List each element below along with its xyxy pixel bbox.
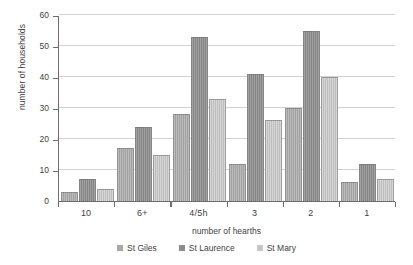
legend-label: St Giles (127, 243, 157, 253)
y-axis-tick-label: 20 (40, 134, 49, 144)
y-axis-tick-label: 10 (40, 165, 49, 175)
x-axis-tick-mark (58, 202, 59, 207)
x-axis-tick-mark (170, 202, 171, 207)
bar-chart: number of households 0102030405060 106+4… (0, 0, 413, 265)
bar (303, 31, 320, 202)
x-axis-tick-mark (114, 202, 115, 207)
x-axis-tick-mark (227, 202, 228, 207)
x-axis-tick-label: 4/5h (170, 208, 226, 218)
bar (153, 155, 170, 202)
bar (135, 127, 152, 201)
bar (173, 114, 190, 201)
bar (285, 108, 302, 201)
bar (61, 192, 78, 201)
bar (191, 37, 208, 201)
x-axis-tick-label: 10 (58, 208, 114, 218)
bar (359, 164, 376, 201)
bar-group (115, 16, 171, 201)
legend-swatch (179, 245, 185, 251)
x-axis-tick-label: 6+ (114, 208, 170, 218)
bar (321, 77, 338, 201)
y-axis-tick-label: 40 (40, 72, 49, 82)
legend-swatch (257, 245, 263, 251)
x-axis-tick-mark (283, 202, 284, 207)
legend-item: St Laurence (179, 243, 235, 253)
chart-legend: St GilesSt LaurenceSt Mary (0, 243, 413, 253)
bar (265, 120, 282, 201)
x-axis-labels: 106+4/5h321 (58, 208, 395, 218)
bar (209, 99, 226, 201)
x-axis-title: number of hearths (58, 226, 395, 236)
bar (341, 182, 358, 201)
bar (79, 179, 96, 201)
bar-group (171, 16, 227, 201)
y-axis-tick-label: 50 (40, 41, 49, 51)
plot-area (58, 16, 395, 202)
legend-item: St Giles (117, 243, 157, 253)
bar (117, 148, 134, 201)
gridline (59, 14, 395, 15)
y-axis-tick-label: 30 (40, 103, 49, 113)
bar (377, 179, 394, 201)
legend-item: St Mary (257, 243, 296, 253)
legend-label: St Mary (267, 243, 296, 253)
x-axis-tick-mark (339, 202, 340, 207)
bar-group (283, 16, 339, 201)
x-axis-tick-label: 1 (339, 208, 395, 218)
bar (247, 74, 264, 201)
bar-group (339, 16, 395, 201)
legend-swatch (117, 245, 123, 251)
y-axis-ticks: 0102030405060 (0, 16, 58, 202)
y-axis-tick-label: 0 (44, 196, 49, 206)
legend-label: St Laurence (189, 243, 235, 253)
bar (229, 164, 246, 201)
x-axis-tick-label: 2 (283, 208, 339, 218)
x-axis-tick-label: 3 (227, 208, 283, 218)
bar-group (59, 16, 115, 201)
bar (97, 189, 114, 201)
bar-group (227, 16, 283, 201)
y-axis-tick-label: 60 (40, 10, 49, 20)
x-axis-tick-mark (395, 202, 396, 207)
bar-groups (59, 16, 395, 201)
